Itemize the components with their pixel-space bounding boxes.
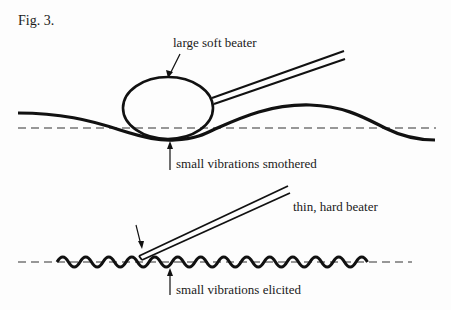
smothered-label: small vibrations smothered <box>176 157 317 170</box>
hard-beater-stick-line1 <box>139 186 288 256</box>
soft-beater-head <box>123 77 213 139</box>
arrow-up-elicited-icon <box>167 268 173 295</box>
hard-beater-tip <box>139 256 142 260</box>
hard-beater-stick-line2 <box>142 193 290 260</box>
string-deflected-curve <box>18 105 435 140</box>
arrow-to-hard-beater-icon <box>136 225 144 249</box>
arrow-to-soft-beater-icon <box>166 54 180 78</box>
hard-beater-label: thin, hard beater <box>293 200 378 213</box>
arrow-up-smothered-icon <box>167 141 173 170</box>
elicited-label: small vibrations elicited <box>176 283 301 296</box>
top-panel <box>18 51 436 170</box>
figure-label: Fig. 3. <box>18 14 54 28</box>
soft-beater-label: large soft beater <box>173 36 257 49</box>
soft-beater-stick-line2 <box>214 59 345 104</box>
string-vibrating-wave <box>57 257 368 267</box>
soft-beater-stick-line1 <box>212 51 344 98</box>
figure-canvas: Fig. 3. large soft beater small vibratio… <box>0 0 451 310</box>
